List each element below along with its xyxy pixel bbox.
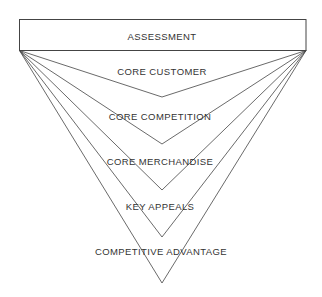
level-label-competitive-advantage: COMPETITIVE ADVANTAGE	[95, 246, 227, 257]
funnel-labels: CORE CUSTOMER CORE COMPETITION CORE MERC…	[95, 66, 227, 257]
assessment-label: ASSESSMENT	[128, 31, 197, 42]
funnel-diagram: ASSESSMENT CORE CUSTOMER CORE COMPETITIO…	[0, 0, 322, 297]
level-label-core-customer: CORE CUSTOMER	[117, 66, 206, 77]
level-label-core-merchandise: CORE MERCHANDISE	[107, 156, 214, 167]
level-label-key-appeals: KEY APPEALS	[126, 201, 195, 212]
level-label-core-competition: CORE COMPETITION	[109, 111, 211, 122]
